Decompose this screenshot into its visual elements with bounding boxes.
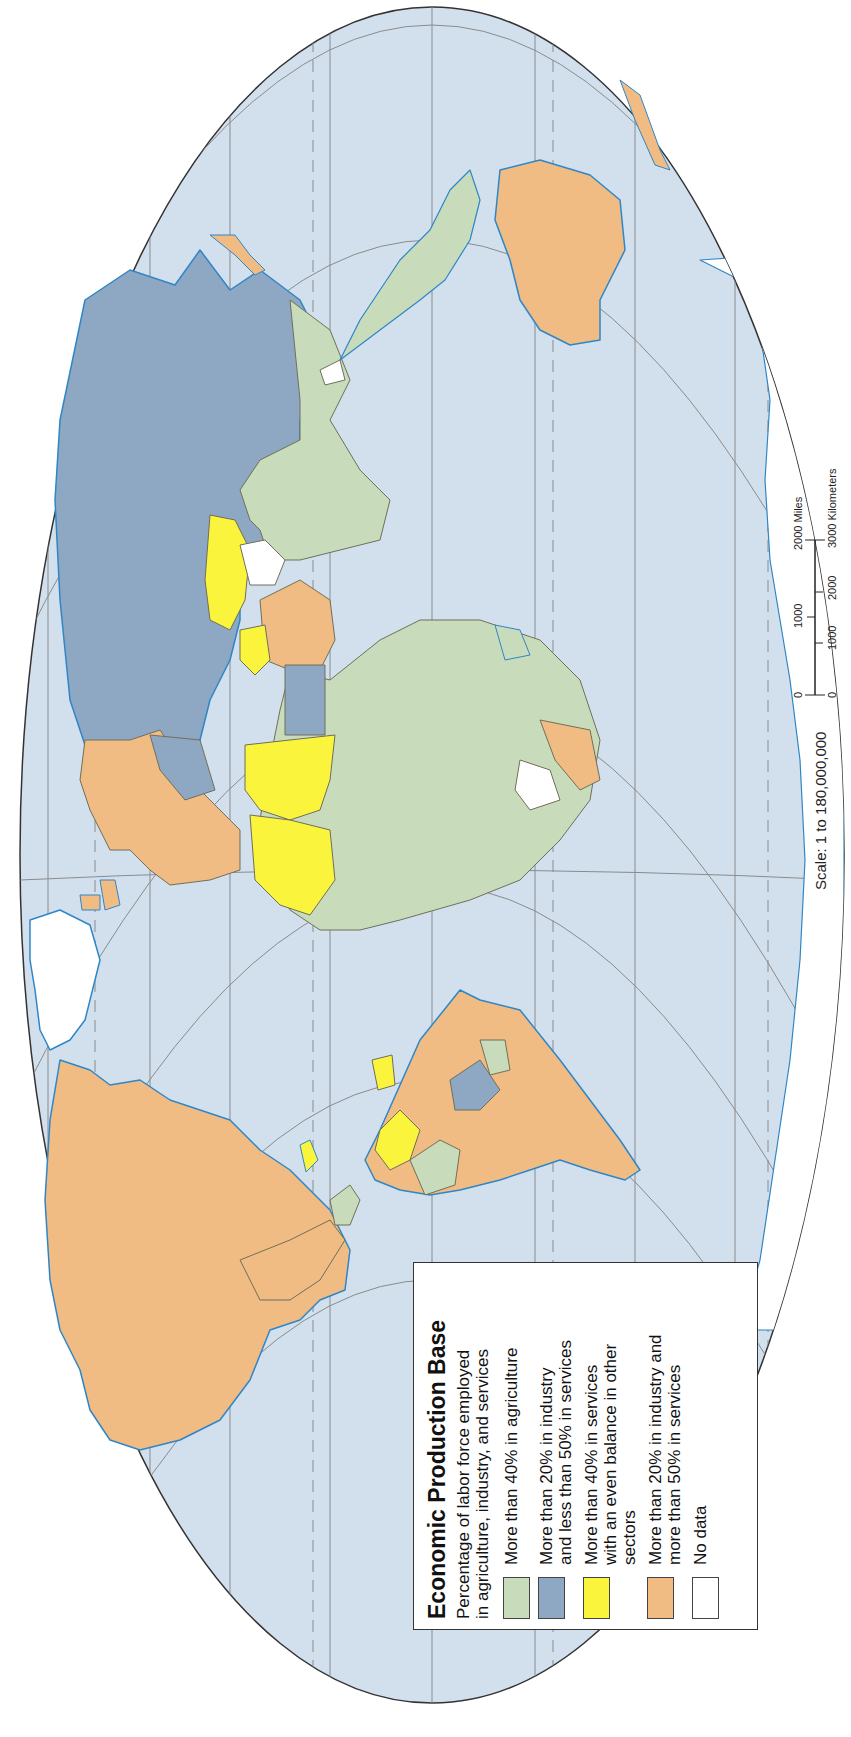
swatch-no-data [692,1577,719,1619]
legend-title: Economic Production Base [424,1275,450,1619]
scale-mile-0: 0 [792,692,804,698]
legend-label: More than 20% in industry and less than … [537,1340,575,1565]
legend: Economic Production Base Percentage of l… [413,1262,758,1630]
scale-mile-1000: 1000 [792,604,804,628]
swatch-agriculture [503,1577,530,1619]
scale-ratio: Scale: 1 to 180,000,000 [812,732,829,890]
swatch-services [583,1577,610,1619]
legend-label: No data [691,1505,710,1565]
scale-mile-2000: 2000 Miles [792,497,804,550]
egypt-industry [285,665,325,735]
swatch-industry [538,1577,565,1619]
legend-item-industry-services: More than 20% in industry and more than … [646,1275,684,1619]
legend-item-no-data: No data [691,1275,719,1619]
legend-item-agriculture: More than 40% in agriculture [502,1275,530,1619]
legend-item-services: More than 40% in services with an even b… [582,1275,639,1619]
scale-km-1000: 1000 [826,626,838,650]
scale-km-3000: 3000 Kilometers [826,469,838,549]
legend-label: More than 40% in agriculture [502,1348,521,1565]
iceland [80,895,100,910]
scale-km-0: 0 [826,692,838,698]
scale-km-2000: 2000 [826,576,838,600]
swatch-industry-services [647,1577,674,1619]
legend-label: More than 20% in industry and more than … [646,1334,684,1565]
legend-subtitle: Percentage of labor force employed in ag… [454,1275,492,1619]
legend-item-industry: More than 20% in industry and less than … [537,1275,575,1619]
scale-bar: Scale: 1 to 180,000,000 0 1000 2000 Mile… [760,420,850,890]
legend-label: More than 40% in services with an even b… [582,1344,639,1565]
